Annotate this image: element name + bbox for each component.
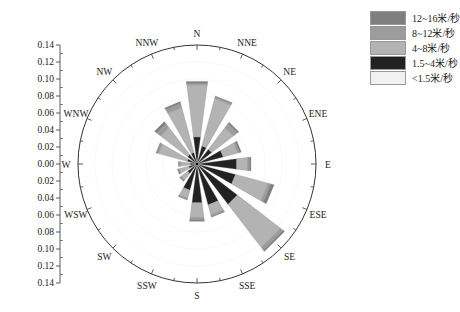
legend-label: <1.5米/秒	[412, 70, 453, 85]
circle-tick	[302, 208, 307, 210]
axis-tick-label: 0.12	[37, 57, 54, 67]
axis-tick-label: 0.10	[37, 74, 54, 84]
legend-swatch	[370, 56, 406, 70]
circle-tick	[80, 187, 83, 188]
axis-tick-label: 0.06	[37, 210, 54, 220]
circle-tick	[302, 118, 307, 120]
axis-tick-label: 0.08	[37, 227, 54, 237]
legend: 12~16米/秒 8~12米/秒 4~8米/秒 1.5~4米/秒 <1.5米/秒	[370, 10, 460, 85]
axis-tick-label: 0.04	[37, 193, 54, 203]
direction-label-nne: NNE	[237, 38, 257, 48]
petal-segment-e	[237, 157, 248, 170]
direction-label-w: W	[62, 160, 71, 170]
axis-tick-label: 0.02	[37, 176, 54, 186]
legend-item-4-8: 4~8米/秒	[370, 40, 460, 55]
legend-swatch	[370, 71, 406, 85]
direction-label-n: N	[194, 29, 201, 39]
direction-label-nnw: NNW	[136, 38, 159, 48]
petal-segment-e	[248, 157, 250, 171]
legend-swatch	[370, 26, 406, 40]
circle-tick	[241, 54, 243, 59]
circle-tick	[151, 269, 153, 274]
petal-segment-w	[180, 162, 190, 166]
circle-tick	[174, 278, 175, 281]
direction-label-e: E	[325, 160, 331, 170]
legend-item-12-16: 12~16米/秒	[370, 10, 460, 25]
axis-tick-label: 0.02	[37, 142, 54, 152]
direction-label-sw: SW	[97, 252, 111, 262]
axis-tick-label: 0.04	[37, 125, 54, 135]
petal-segment-n	[186, 81, 208, 83]
circle-tick	[80, 141, 83, 142]
circle-tick	[311, 141, 314, 142]
axis-tick-label: 0.10	[37, 244, 54, 254]
direction-label-se: SE	[284, 252, 295, 262]
legend-item-8-12: 8~12米/秒	[370, 25, 460, 40]
petal-segment-w	[178, 162, 179, 167]
petal-segment-n	[186, 83, 207, 85]
legend-swatch	[370, 11, 406, 25]
petal-segment-s	[190, 203, 204, 218]
circle-tick	[174, 47, 175, 50]
axis-tick-label: 0.00	[37, 159, 54, 169]
petal-segment-e	[249, 157, 251, 171]
circle-tick	[278, 245, 282, 249]
direction-label-nw: NW	[96, 67, 112, 77]
circle-tick	[261, 65, 263, 67]
axis-tick-label: 0.08	[37, 91, 54, 101]
circle-tick	[311, 187, 314, 188]
legend-swatch	[370, 41, 406, 55]
circle-tick	[98, 228, 100, 230]
petal-segment-s	[190, 218, 204, 220]
circle-tick	[98, 98, 100, 100]
petal-segment-s	[190, 220, 205, 222]
legend-label: 4~8米/秒	[412, 40, 450, 55]
direction-label-wnw: WNW	[64, 109, 89, 119]
direction-label-ne: NE	[283, 67, 296, 77]
circle-tick	[278, 80, 282, 84]
legend-label: 1.5~4米/秒	[412, 55, 458, 70]
petal-segment-n	[187, 85, 208, 137]
axis-tick-label: 0.14	[37, 40, 54, 50]
circle-tick	[261, 260, 263, 262]
circle-tick	[293, 98, 295, 100]
circle-tick	[113, 245, 117, 249]
direction-label-ese: ESE	[310, 210, 327, 220]
circle-tick	[87, 208, 92, 210]
legend-item-1-5-4: 1.5~4米/秒	[370, 55, 460, 70]
legend-label: 12~16米/秒	[412, 10, 460, 25]
legend-label: 8~12米/秒	[412, 25, 455, 40]
circle-tick	[151, 54, 153, 59]
circle-tick	[131, 65, 133, 67]
circle-tick	[113, 80, 117, 84]
direction-label-ssw: SSW	[137, 281, 157, 291]
axis-tick-label: 0.12	[37, 261, 54, 271]
circle-tick	[293, 228, 295, 230]
direction-label-ene: ENE	[309, 109, 328, 119]
circle-tick	[220, 47, 221, 50]
circle-tick	[241, 269, 243, 274]
direction-label-sse: SSE	[239, 281, 256, 291]
direction-label-s: S	[194, 291, 199, 301]
axis-tick-label: 0.14	[37, 278, 54, 288]
direction-label-wsw: WSW	[64, 210, 87, 220]
circle-tick	[220, 278, 221, 281]
center-dot	[196, 163, 198, 165]
legend-item-lt-1-5: <1.5米/秒	[370, 70, 460, 85]
axis-tick-label: 0.06	[37, 108, 54, 118]
circle-tick	[131, 260, 133, 262]
